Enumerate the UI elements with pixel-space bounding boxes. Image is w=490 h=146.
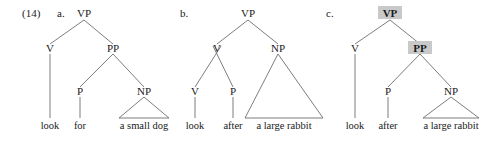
node-pp-c: PP [413, 42, 427, 54]
node-v-a: V [46, 42, 54, 54]
node-pp-a: PP [107, 42, 119, 54]
terminal-verb-c: look [346, 120, 365, 131]
np-triangle-b [245, 54, 323, 118]
terminal-verb-b: look [186, 120, 205, 131]
node-vp-a: VP [77, 7, 91, 19]
node-vcomplex-b: V [213, 42, 221, 54]
example-number: (14) [22, 7, 41, 20]
branch-vp-np [248, 20, 278, 44]
terminal-np-b: a large rabbit [256, 120, 311, 131]
np-triangle-c [423, 97, 479, 118]
branch-pp-np [113, 54, 144, 87]
branch-vp-pp-c [390, 20, 420, 44]
branch-pp-np-c [420, 54, 451, 87]
node-np-c: NP [444, 85, 458, 97]
branch-vp-v-c [355, 20, 390, 44]
tree-a: (14) a. VP V PP P NP look for a small do… [0, 0, 178, 146]
tree-b: b. VP V NP V P look after a large rabbit [172, 0, 332, 146]
node-v-b: V [191, 85, 199, 97]
branch-pp-p [80, 54, 113, 87]
node-np-a: NP [137, 85, 151, 97]
branch-vp-pp [84, 20, 113, 44]
node-v-c: V [351, 42, 359, 54]
node-vp-c: VP [383, 7, 398, 19]
terminal-prep-c: after [378, 120, 398, 131]
node-np-b: NP [271, 42, 285, 54]
node-p-c: P [385, 85, 391, 97]
terminal-prep-b: after [223, 120, 243, 131]
node-vp-b: VP [241, 7, 255, 19]
tree-a-letter: a. [57, 7, 65, 19]
tree-c: c. VP V PP P NP look after a large rabbi… [320, 0, 490, 146]
node-p-a: P [77, 85, 83, 97]
np-triangle-a [119, 97, 169, 118]
syntax-tree-figure: (14) a. VP V PP P NP look for a small do… [0, 0, 490, 146]
terminal-verb-a: look [41, 120, 60, 131]
tree-c-letter: c. [326, 7, 334, 19]
branch-pp-p-c [388, 54, 420, 87]
terminal-np-a: a small dog [120, 120, 169, 131]
branch-vp-vcomplex [217, 20, 248, 44]
node-p-b: P [230, 85, 236, 97]
branch-vp-v [50, 20, 84, 44]
terminal-np-c: a large rabbit [423, 120, 478, 131]
tree-b-letter: b. [180, 7, 189, 19]
terminal-prep-a: for [74, 120, 87, 131]
